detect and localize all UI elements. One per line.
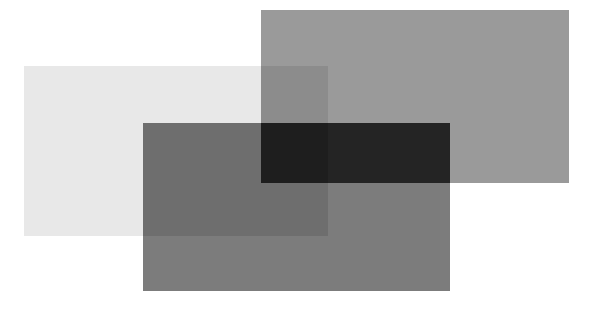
triple-overlap: [261, 123, 328, 183]
